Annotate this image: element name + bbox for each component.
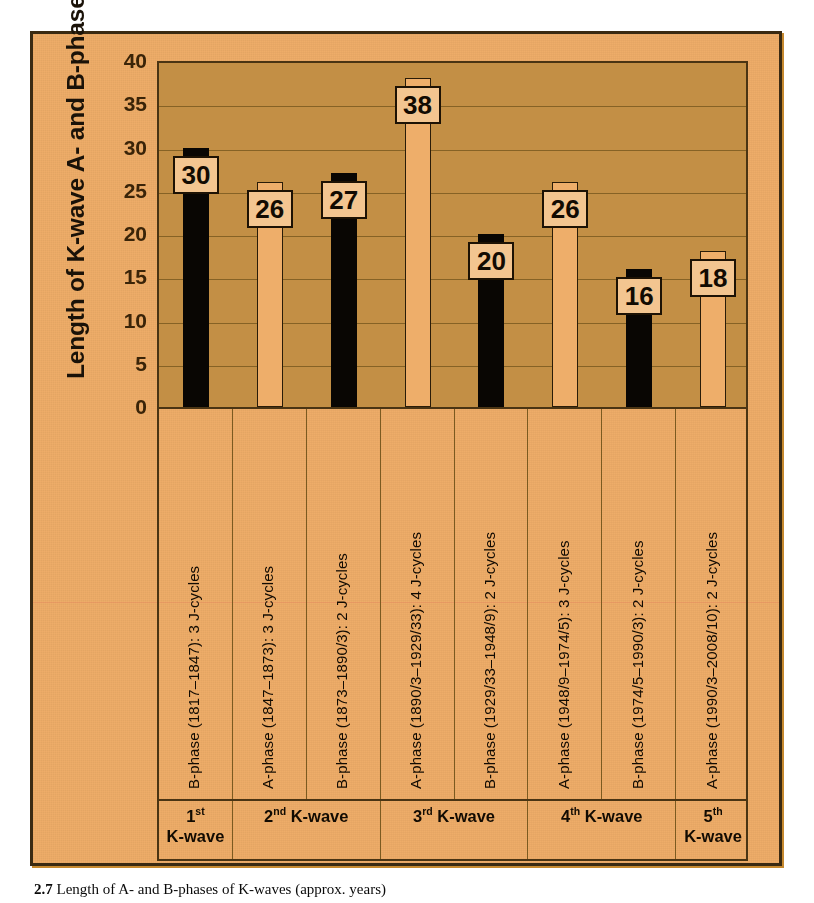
bar-slot: 38	[381, 63, 455, 407]
y-axis-tick-5: 5	[95, 352, 147, 376]
kwave-group-3rd: 3rd K-wave	[381, 801, 529, 859]
bar-value-label-2: 26	[247, 190, 293, 228]
kwave-group-4th: 4th K-wave	[528, 801, 676, 859]
category-label-6: A-phase (1948/9–1974/5): 3 J-cycles	[555, 540, 572, 789]
category-label-2: A-phase (1847–1873): 3 J-cycles	[259, 566, 276, 789]
kwave-group-name: K-wave	[684, 826, 742, 847]
category-cell-7: B-phase (1974/5–1990/3): 2 J-cycles	[602, 409, 676, 799]
category-label-5: B-phase (1929/33–1948/9): 2 J-cycles	[481, 532, 498, 789]
y-axis-tick-40: 40	[95, 49, 147, 73]
bar-slot: 26	[233, 63, 307, 407]
category-cell-5: B-phase (1929/33–1948/9): 2 J-cycles	[455, 409, 529, 799]
kwave-group-5th: 5thK-wave	[676, 801, 750, 859]
y-axis-tick-20: 20	[95, 222, 147, 246]
kwave-group-ordinal: 2nd K-wave	[264, 805, 348, 826]
category-cell-6: A-phase (1948/9–1974/5): 3 J-cycles	[528, 409, 602, 799]
kwave-group-ordinal: 5th	[704, 805, 723, 826]
kwave-group-1st: 1stK-wave	[159, 801, 233, 859]
bar-slot: 20	[455, 63, 529, 407]
category-label-8: A-phase (1990/3–2008/10): 2 J-cycles	[703, 532, 720, 789]
bar-value-label-1: 30	[173, 156, 219, 194]
bar-value-label-7: 16	[616, 277, 662, 315]
category-label-3: B-phase (1873–1890/3): 2 J-cycles	[333, 553, 350, 789]
kwave-group-2nd: 2nd K-wave	[233, 801, 381, 859]
bar-value-label-3: 27	[321, 181, 367, 219]
category-cell-1: B-phase (1817–1847): 3 J-cycles	[159, 409, 233, 799]
bar-slot: 16	[602, 63, 676, 407]
bar-value-label-5: 20	[468, 242, 514, 280]
y-axis-title: Length of K-wave A- and B-phases (years)	[62, 19, 90, 379]
figure-caption: 2.7 Length of A- and B-phases of K-waves…	[34, 881, 794, 898]
category-cell-8: A-phase (1990/3–2008/10): 2 J-cycles	[676, 409, 750, 799]
category-cell-3: B-phase (1873–1890/3): 2 J-cycles	[307, 409, 381, 799]
kwave-group-strip: 1stK-wave2nd K-wave3rd K-wave4th K-wave5…	[157, 799, 748, 861]
bar-slot: 26	[528, 63, 602, 407]
plot-area: 3026273820261618	[157, 61, 748, 407]
bar-value-label-4: 38	[395, 86, 441, 124]
bar-slot: 30	[159, 63, 233, 407]
category-cell-4: A-phase (1890/3–1929/33): 4 J-cycles	[381, 409, 455, 799]
y-axis-tick-labels: 0510152025303540	[95, 56, 147, 416]
y-axis-tick-25: 25	[95, 179, 147, 203]
category-label-1: B-phase (1817–1847): 3 J-cycles	[185, 566, 202, 789]
bar-slot: 18	[676, 63, 750, 407]
kwave-group-ordinal: 4th K-wave	[561, 805, 642, 826]
y-axis-tick-10: 10	[95, 309, 147, 333]
y-axis-tick-0: 0	[95, 395, 147, 419]
bar-value-label-8: 18	[690, 259, 736, 297]
kwave-group-ordinal: 1st	[186, 805, 205, 826]
caption-number: 2.7	[34, 881, 53, 897]
bar-4[interactable]	[405, 78, 431, 407]
category-label-strip: B-phase (1817–1847): 3 J-cyclesA-phase (…	[157, 407, 748, 799]
y-axis-tick-30: 30	[95, 136, 147, 160]
bar-slot: 27	[307, 63, 381, 407]
category-label-7: B-phase (1974/5–1990/3): 2 J-cycles	[629, 540, 646, 789]
bar-value-label-6: 26	[542, 190, 588, 228]
y-axis-tick-35: 35	[95, 92, 147, 116]
figure-panel: Length of K-wave A- and B-phases (years)…	[30, 31, 782, 866]
category-label-4: A-phase (1890/3–1929/33): 4 J-cycles	[407, 532, 424, 789]
bars-layer: 3026273820261618	[159, 63, 746, 407]
y-axis-tick-15: 15	[95, 265, 147, 289]
kwave-group-name: K-wave	[167, 826, 225, 847]
caption-text: Length of A- and B-phases of K-waves (ap…	[57, 881, 386, 897]
category-cell-2: A-phase (1847–1873): 3 J-cycles	[233, 409, 307, 799]
kwave-group-ordinal: 3rd K-wave	[413, 805, 495, 826]
